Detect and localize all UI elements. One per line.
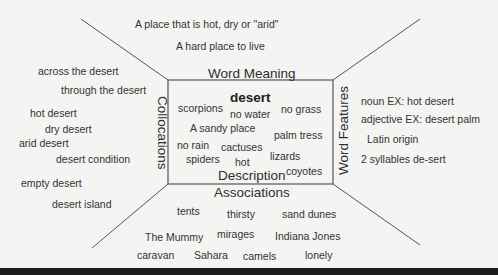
description-item: A sandy place xyxy=(190,123,255,134)
heading-associations: Associations xyxy=(214,186,290,200)
association-item: lonely xyxy=(305,250,332,261)
collocation-item: through the desert xyxy=(61,85,146,96)
diagonal-bottom-right xyxy=(333,184,420,245)
association-item: thirsty xyxy=(227,209,255,220)
description-item: cactuses xyxy=(221,142,262,153)
description-item: scorpions xyxy=(178,103,223,114)
description-item: no water xyxy=(230,109,270,120)
feature-item: adjective EX: desert palm xyxy=(361,114,480,125)
feature-item: Latin origin xyxy=(367,134,418,145)
description-item: coyotes xyxy=(286,166,322,177)
heading-word-features: Word Features xyxy=(336,86,351,175)
description-item: spiders xyxy=(186,154,220,165)
description-item: no rain xyxy=(177,140,209,151)
collocation-item: arid desert xyxy=(19,138,69,149)
association-item: Sahara xyxy=(194,250,228,261)
association-item: Indiana Jones xyxy=(275,231,340,242)
heading-collocations: Collocations xyxy=(155,96,170,170)
feature-item: 2 syllables de-sert xyxy=(361,154,446,165)
collocation-item: empty desert xyxy=(21,178,82,189)
association-item: tents xyxy=(177,206,200,217)
heading-description: Description xyxy=(218,169,286,183)
description-item: palm tress xyxy=(274,130,322,141)
collocation-item: desert condition xyxy=(56,154,130,165)
association-item: The Mummy xyxy=(145,232,203,243)
meaning-item: A hard place to live xyxy=(176,41,265,52)
description-item: no grass xyxy=(281,104,321,115)
collocation-item: dry desert xyxy=(45,124,92,135)
collocation-item: desert island xyxy=(52,199,112,210)
association-item: mirages xyxy=(217,229,254,240)
bottom-dark-band xyxy=(0,268,498,275)
collocation-item: hot desert xyxy=(30,108,77,119)
description-item: lizards xyxy=(270,151,300,162)
feature-item: noun EX: hot desert xyxy=(361,96,454,107)
description-item: hot xyxy=(235,157,250,168)
diagonal-top-right xyxy=(333,19,420,80)
association-item: sand dunes xyxy=(282,209,336,220)
association-item: camels xyxy=(243,251,276,262)
meaning-item: A place that is hot, dry or "arid" xyxy=(135,19,278,30)
collocation-item: across the desert xyxy=(38,66,119,77)
center-word: desert xyxy=(230,91,271,105)
heading-word-meaning: Word Meaning xyxy=(208,67,296,81)
association-item: caravan xyxy=(137,250,174,261)
